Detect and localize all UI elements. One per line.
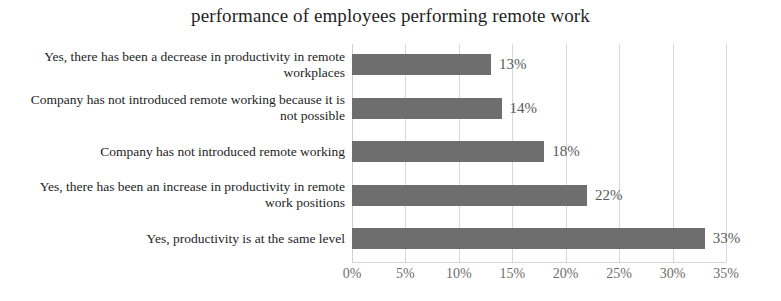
category-label: Yes, productivity is at the same level — [12, 231, 345, 247]
bar-value-label: 33% — [713, 229, 741, 248]
category-label-axis: Yes, there has been a decrease in produc… — [12, 44, 345, 262]
bar[interactable] — [352, 54, 491, 75]
bar[interactable] — [352, 228, 705, 249]
x-tick-label: 35% — [713, 266, 739, 282]
bar-value-label: 22% — [595, 186, 623, 205]
bar[interactable] — [352, 141, 544, 162]
category-label: Yes, there has been an increase in produ… — [12, 179, 345, 211]
bar[interactable] — [352, 98, 502, 119]
bar-value-label: 13% — [499, 55, 527, 74]
bar-value-label: 18% — [552, 142, 580, 161]
bar-row: 13% — [352, 44, 726, 88]
bar-row: 14% — [352, 88, 726, 132]
x-tick-label: 25% — [606, 266, 632, 282]
chart-title: performance of employees performing remo… — [0, 5, 781, 27]
x-tick-label: 30% — [660, 266, 686, 282]
x-tick-label: 5% — [396, 266, 415, 282]
category-label: Company has not introduced remote workin… — [12, 144, 345, 160]
x-tick-label: 10% — [446, 266, 472, 282]
x-tick-label: 20% — [553, 266, 579, 282]
bar-chart-figure: performance of employees performing remo… — [0, 0, 781, 301]
plot-area: 13%14%18%22%33% — [352, 44, 726, 262]
bar[interactable] — [352, 185, 587, 206]
bar-value-label: 14% — [510, 99, 538, 118]
x-tick-label: 15% — [499, 266, 525, 282]
bar-row: 33% — [352, 218, 726, 262]
category-label: Company has not introduced remote workin… — [12, 92, 345, 124]
x-axis-baseline — [352, 262, 726, 263]
x-tick-label: 0% — [343, 266, 362, 282]
bar-row: 18% — [352, 131, 726, 175]
x-axis-tick-labels: 0%5%10%15%20%25%30%35% — [352, 266, 726, 290]
bar-row: 22% — [352, 175, 726, 219]
category-label: Yes, there has been a decrease in produc… — [12, 49, 345, 81]
